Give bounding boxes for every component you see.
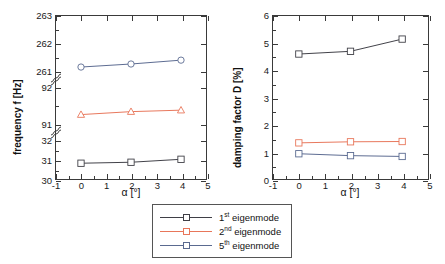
x-tick-label-right: 0	[297, 180, 302, 190]
y-tick-label-right: 6	[264, 11, 269, 21]
legend-item: 5th eigenmode	[160, 238, 284, 252]
x-tick-label-right: 2	[349, 180, 354, 190]
legend-item: 2nd eigenmode	[160, 224, 284, 238]
legend-marker-square	[183, 228, 190, 235]
y-tick-label-left: 31	[41, 156, 52, 166]
legend-swatch	[160, 239, 212, 251]
x-tick-right-mirror	[430, 16, 431, 21]
y-tick-label-left: 261	[36, 67, 52, 77]
y-axis-title-right: damping factor D [%]	[232, 67, 243, 168]
y-tick-label-left: 32	[41, 136, 52, 146]
y-tick-label-left: 263	[36, 11, 52, 21]
y-tick-label-right: 4	[264, 66, 269, 76]
x-tick-label-right: 3	[375, 180, 380, 190]
x-tick-label-left: 0	[79, 180, 84, 190]
y-tick-label-right: 2	[264, 121, 269, 131]
x-tick-label-right: 5	[427, 180, 432, 190]
y-tick-label-right: 5	[264, 39, 269, 49]
x-tick-label-left: 1	[104, 180, 109, 190]
legend-label: 2nd eigenmode	[219, 226, 281, 237]
y-tick-label-left: 30	[41, 176, 52, 186]
y-tick-label-left: 92	[41, 83, 52, 93]
series-layer-right	[273, 16, 428, 179]
y-tick-label-right: 3	[264, 94, 269, 104]
y-tick-label-left: 91	[41, 120, 52, 130]
y-tick-label-right: 1	[264, 149, 269, 159]
x-tick-label-left: 4	[180, 180, 185, 190]
legend-marker-square	[183, 214, 190, 221]
legend-label: 1st eigenmode	[219, 212, 279, 223]
series-layer-left	[56, 16, 206, 179]
legend-item: 1st eigenmode	[160, 210, 284, 224]
x-tick-label-left: -1	[52, 180, 60, 190]
x-tick-label-left: 3	[155, 180, 160, 190]
legend-swatch	[160, 211, 212, 223]
x-tick-label-right: 4	[401, 180, 406, 190]
x-tick-label-left: 2	[129, 180, 134, 190]
panel-frequency: frequency f [Hz] α [°] 30313291922612622…	[0, 0, 222, 200]
panel-damping: damping factor D [%] α [°] 0123456-10123…	[222, 0, 445, 200]
x-tick-label-right: 1	[323, 180, 328, 190]
legend-label: 5th eigenmode	[219, 240, 279, 251]
legend: 1st eigenmode2nd eigenmode5th eigenmode	[152, 204, 292, 258]
legend-swatch	[160, 225, 212, 237]
legend-marker-square	[183, 242, 190, 249]
figure-container: frequency f [Hz] α [°] 30313291922612622…	[0, 0, 445, 264]
x-tick-label-right: -1	[269, 180, 277, 190]
x-tick-label-left: 5	[205, 180, 210, 190]
y-tick-label-left: 262	[36, 39, 52, 49]
y-axis-title-left: frequency f [Hz]	[12, 79, 23, 155]
plot-area-frequency: 3031329192261262263-1012345	[55, 15, 207, 180]
plot-area-damping: 0123456-1012345	[272, 15, 429, 180]
x-tick-left-mirror	[208, 16, 209, 21]
